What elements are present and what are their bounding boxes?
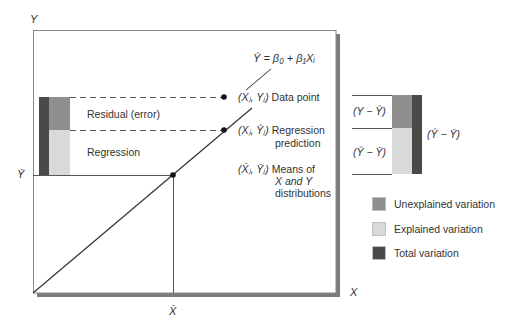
left-explained-bar <box>49 130 70 175</box>
prediction-label-line1: Regression <box>272 124 325 136</box>
prediction-annotation: (Xⱼ, Ŷⱼ) Regression <box>238 124 325 136</box>
unexplained-swatch-icon <box>372 197 386 211</box>
legend-label-unexplained: Unexplained variation <box>394 198 495 210</box>
total-swatch-icon <box>372 246 386 260</box>
regression-label: Regression <box>87 146 140 158</box>
means-label-line2: X and Y <box>275 175 312 187</box>
right-unexplained-bar <box>392 95 412 128</box>
residual-label: Residual (error) <box>87 108 160 120</box>
x-mean-label: X̄ <box>169 305 176 317</box>
right-bottom-label: (Ŷ − Ȳ) <box>353 146 386 158</box>
data-point-annotation: (Xⱼ, Yⱼ) Data point <box>238 91 319 103</box>
means-label-line3: distributions <box>275 187 331 199</box>
frame-shadow-bottom <box>37 293 340 297</box>
prediction-label-line2: prediction <box>275 137 321 149</box>
means-point-marker <box>170 172 176 178</box>
right-top-label: (Y − Ŷ) <box>353 105 386 117</box>
legend-label-total: Total variation <box>394 247 459 259</box>
legend-item-total: Total variation <box>372 246 459 260</box>
regression-equation: Ŷ = β₀ + β₁Xᵢ <box>253 52 315 64</box>
right-explained-bar <box>392 128 412 174</box>
data-point-label: Data point <box>272 91 320 103</box>
right-total-label: (Ŷ − Ȳ) <box>427 128 460 140</box>
y-mean-label: Ȳ <box>17 168 24 180</box>
prediction-coord: (Xⱼ, Ŷⱼ) <box>238 124 269 136</box>
data-point-marker <box>221 94 227 100</box>
left-total-variation-bar <box>39 97 49 175</box>
legend-item-explained: Explained variation <box>372 222 483 236</box>
explained-swatch-icon <box>372 222 386 236</box>
data-point-coord: (Xⱼ, Yⱼ) <box>238 91 269 103</box>
left-unexplained-bar <box>49 97 70 130</box>
y-axis-label: Y <box>30 13 37 25</box>
means-label-line1: Means of <box>272 163 315 175</box>
frame-shadow-right <box>336 34 340 297</box>
legend-item-unexplained: Unexplained variation <box>372 197 495 211</box>
x-axis-label: X <box>350 286 357 298</box>
means-coord: (X̄ⱼ, Ȳⱼ) <box>238 163 269 175</box>
prediction-point-marker <box>221 127 227 133</box>
legend-label-explained: Explained variation <box>394 223 483 235</box>
means-annotation: (X̄ⱼ, Ȳⱼ) Means of <box>238 163 315 175</box>
right-total-variation-bar <box>412 95 422 174</box>
